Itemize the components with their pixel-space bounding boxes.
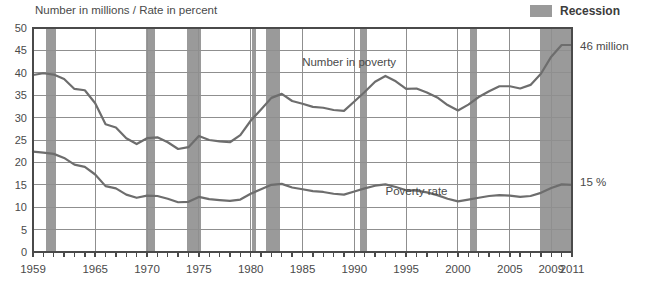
legend-recession-label: Recession — [560, 4, 620, 18]
y-tick-label-45: 45 — [15, 44, 27, 56]
y-tick-label-5: 5 — [21, 224, 27, 236]
x-tick-label-2000: 2000 — [445, 263, 471, 275]
annotation-number-in-poverty: Number in poverty — [302, 56, 396, 68]
y-tick-label-35: 35 — [15, 89, 27, 101]
y-tick-label-25: 25 — [15, 134, 27, 146]
x-tick-label-1995: 1995 — [393, 263, 419, 275]
y-tick-label-50: 50 — [15, 22, 27, 34]
y-tick-label-30: 30 — [15, 112, 27, 124]
x-tick-label-1965: 1965 — [82, 263, 108, 275]
chart-canvas: 0510152025303540455019591965197019751980… — [0, 0, 648, 286]
legend-recession-swatch — [530, 5, 552, 17]
y-tick-label-15: 15 — [15, 179, 27, 191]
y-tick-label-10: 10 — [15, 201, 27, 213]
x-tick-label-1975: 1975 — [186, 263, 212, 275]
y-tick-label-0: 0 — [21, 246, 27, 258]
axis-units-note: Number in millions / Rate in percent — [35, 4, 218, 16]
x-tick-label-2011: 2011 — [560, 263, 585, 275]
end-label-number-in-poverty: 46 million — [580, 40, 629, 52]
end-label-poverty-rate: 15 % — [580, 176, 606, 188]
x-tick-label-2005: 2005 — [497, 263, 523, 275]
annotation-poverty-rate: Poverty rate — [386, 185, 448, 197]
poverty-chart-figure: 0510152025303540455019591965197019751980… — [0, 0, 648, 286]
y-tick-label-20: 20 — [15, 156, 27, 168]
x-tick-label-1990: 1990 — [342, 263, 368, 275]
y-tick-label-40: 40 — [15, 67, 27, 79]
x-tick-label-1985: 1985 — [290, 263, 316, 275]
x-tick-label-1970: 1970 — [134, 263, 160, 275]
x-tick-label-1959: 1959 — [20, 263, 46, 275]
x-tick-label-1980: 1980 — [238, 263, 264, 275]
